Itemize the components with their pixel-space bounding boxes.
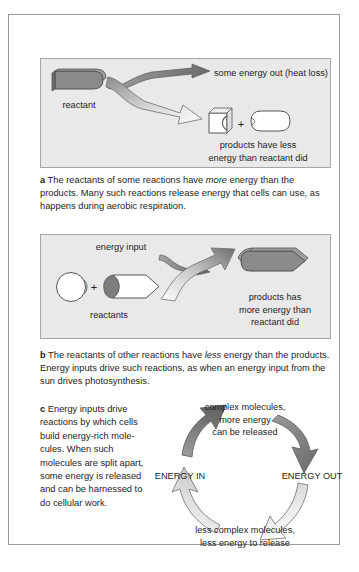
cycle-bottom-label: less complex molecules, less energy to r… [175, 524, 315, 549]
cycle-bottom-line2: less energy to release [200, 538, 290, 548]
caption-b: b The reactants of other reactions have … [40, 349, 332, 389]
cycle-top-line3: can be released [212, 427, 277, 437]
caption-c-text: Energy inputs drive reactions by which c… [40, 404, 143, 508]
cycle-bottom-line1: less complex molecules, [195, 525, 295, 535]
energy-input-label-b: energy input [76, 241, 166, 254]
figure-outer-frame: reactant so [8, 14, 340, 545]
caption-c-letter: c [40, 404, 45, 414]
plus-symbol-a: + [235, 118, 247, 131]
caption-a-lead: The reactants of some reactions have [48, 175, 206, 185]
cycle-top-line2: more energy [219, 415, 271, 425]
caption-c: c Energy inputs drive reactions by which… [40, 403, 144, 510]
cycle-energy-in-label: ENERGY IN [140, 470, 220, 483]
products-note-b-line2: more energy than [239, 305, 311, 315]
products-note-a-line2: energy than reactant did [208, 153, 307, 163]
cycle-top-line1: complex molecules, [205, 402, 286, 412]
products-note-a: products have less energy than reactant … [195, 139, 321, 164]
cycle-energy-out-label: ENERGY OUT [273, 470, 351, 483]
reactant-c-shape [55, 271, 89, 303]
figure-page: reactant so [0, 0, 359, 572]
caption-a-emphasis: more [206, 175, 227, 185]
caption-b-lead: The reactants of other reactions have [48, 350, 205, 360]
caption-a-letter: a [40, 175, 45, 185]
products-note-b-line1: products has [249, 292, 302, 302]
caption-b-emphasis: less [205, 350, 222, 360]
caption-a: a The reactants of some reactions have m… [40, 174, 332, 214]
energy-out-label-a: some energy out (heat loss) [214, 67, 332, 80]
products-note-b-line3: reactant did [251, 317, 299, 327]
cycle-top-label: complex molecules, more energy can be re… [182, 401, 308, 439]
product-b-shape [250, 110, 291, 132]
product-a-shape [207, 107, 233, 135]
products-note-a-line1: products have less [220, 140, 297, 150]
caption-b-letter: b [40, 350, 46, 360]
reactant-shape-a [51, 69, 105, 93]
products-note-b: products has more energy than reactant d… [224, 291, 326, 329]
reactant-d-shape [99, 273, 161, 300]
product-shape-b [237, 247, 310, 275]
reactants-label-b: reactants [68, 309, 150, 322]
reactant-label-a: reactant [51, 99, 107, 112]
reaction-arrow-icon-a [106, 75, 210, 125]
